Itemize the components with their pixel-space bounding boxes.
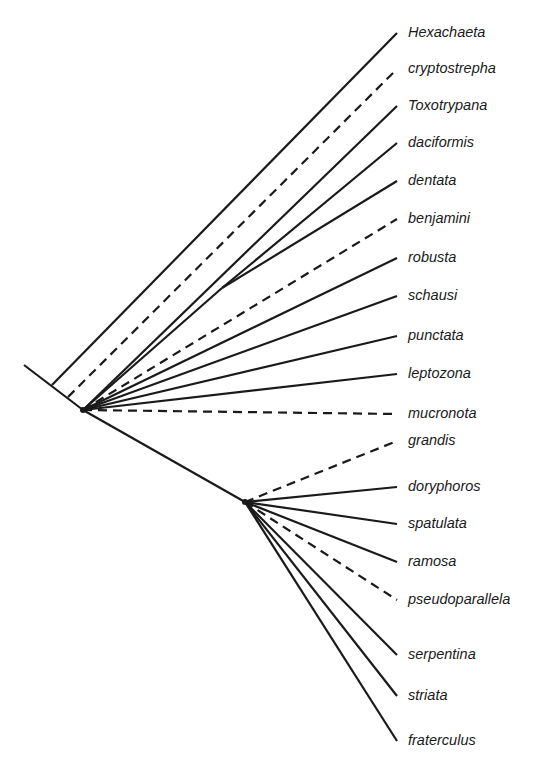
branch-mucronota <box>83 410 397 414</box>
branch-serpentina <box>245 502 397 655</box>
tree-node <box>80 407 86 413</box>
taxon-label-ramosa: ramosa <box>408 553 456 569</box>
tree-node <box>242 499 248 505</box>
internal-branch <box>83 288 222 410</box>
taxon-label-striata: striata <box>408 687 448 703</box>
taxon-label-fraterculus: fraterculus <box>408 732 476 748</box>
taxon-label-grandis: grandis <box>408 432 456 448</box>
taxon-label-serpentina: serpentina <box>408 646 476 662</box>
taxon-label-pseudoparallela: pseudoparallela <box>408 591 510 607</box>
taxon-label-doryphoros: doryphoros <box>408 478 481 494</box>
stem-branch-node-b <box>83 410 245 502</box>
branch-hexachaeta <box>52 33 397 385</box>
branch-grandis <box>245 441 397 502</box>
taxon-label-daciformis: daciformis <box>408 134 474 150</box>
taxon-label-cryptostrepha: cryptostrepha <box>408 60 496 76</box>
phylogenetic-tree-figure: Hexachaeta cryptostrepha Toxotrypana dac… <box>0 0 541 779</box>
taxon-label-hexachaeta: Hexachaeta <box>408 24 485 40</box>
taxon-label-punctata: punctata <box>408 327 464 343</box>
taxon-label-mucronota: mucronota <box>408 405 477 421</box>
tree-branches <box>0 0 541 779</box>
branch-punctata <box>83 336 397 410</box>
branch-toxotrypana <box>83 106 397 410</box>
taxon-label-toxotrypana: Toxotrypana <box>408 97 487 113</box>
branch-benjamini <box>83 219 397 410</box>
branch-daciformis <box>222 143 397 288</box>
taxon-label-schausi: schausi <box>408 287 457 303</box>
branch-fraterculus <box>245 502 397 741</box>
branch-spatulata <box>245 502 397 524</box>
taxon-label-robusta: robusta <box>408 249 456 265</box>
taxon-label-dentata: dentata <box>408 172 456 188</box>
taxon-label-benjamini: benjamini <box>408 210 470 226</box>
branch-robusta <box>83 258 397 410</box>
taxon-label-spatulata: spatulata <box>408 515 467 531</box>
branch-pseudoparallela <box>245 502 397 600</box>
root-branch <box>24 365 83 410</box>
taxon-label-leptozona: leptozona <box>408 365 471 381</box>
branch-doryphoros <box>245 487 397 502</box>
